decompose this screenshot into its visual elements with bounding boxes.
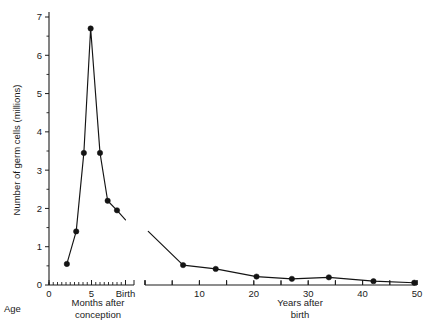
x-tick-label: 10: [194, 288, 205, 299]
x-axis-title-line1: Months after: [72, 297, 125, 308]
x-tick-label: 50: [412, 288, 423, 299]
x-axis-title-line2: birth: [291, 309, 309, 320]
y-axis: 01234567: [37, 11, 49, 290]
y-tick-label: 7: [37, 11, 42, 22]
y-tick-label: 1: [37, 241, 42, 252]
data-point: [213, 266, 218, 271]
age-corner-label: Age: [4, 303, 21, 314]
y-tick-label: 2: [37, 203, 42, 214]
data-point: [64, 261, 69, 266]
y-tick-label: 3: [37, 165, 42, 176]
y-tick-label: 6: [37, 50, 42, 61]
data-point: [371, 278, 376, 283]
axis-labels: 05BirthMonths afterconception1020304050Y…: [46, 288, 422, 320]
y-axis-title: Number of germ cells (millions): [11, 85, 22, 216]
data-point: [289, 276, 294, 281]
data-point: [97, 150, 102, 155]
x-tick-label: 20: [249, 288, 260, 299]
series-line: [148, 231, 414, 282]
x-axes: [49, 280, 417, 285]
y-tick-label: 5: [37, 88, 42, 99]
data-point: [254, 274, 259, 279]
y-tick-label: 0: [37, 279, 42, 290]
data-point: [326, 275, 331, 280]
x-axis-title-line2: conception: [75, 309, 121, 320]
x-tick-label: 40: [357, 288, 368, 299]
chart-canvas: 01234567 05BirthMonths afterconception10…: [0, 0, 429, 324]
data-series: [64, 26, 417, 286]
y-tick-label: 4: [37, 126, 42, 137]
data-point: [114, 208, 119, 213]
data-point: [412, 280, 417, 285]
x-axis-title-line1: Years after: [277, 297, 323, 308]
data-point: [81, 150, 86, 155]
data-point: [180, 262, 185, 267]
data-point: [74, 229, 79, 234]
x-tick-label: 0: [46, 288, 51, 299]
data-point: [88, 26, 93, 31]
germ-cell-chart: 01234567 05BirthMonths afterconception10…: [0, 0, 429, 324]
data-point: [105, 198, 110, 203]
